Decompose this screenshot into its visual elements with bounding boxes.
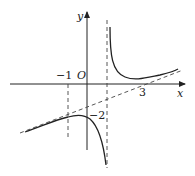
tick-label-neg2: −2 [89, 110, 105, 121]
graph-svg [0, 0, 195, 176]
upper-branch-curve [110, 27, 178, 79]
lower-branch-curve [25, 115, 106, 165]
tick-label-neg1: −1 [56, 70, 72, 81]
oblique-asymptote [20, 70, 183, 133]
y-axis-label: y [77, 11, 83, 22]
x-axis-label: x [177, 88, 183, 99]
function-graph: y x O −1 3 −2 [0, 0, 195, 176]
tick-label-3: 3 [139, 87, 146, 98]
origin-label: O [77, 70, 86, 81]
